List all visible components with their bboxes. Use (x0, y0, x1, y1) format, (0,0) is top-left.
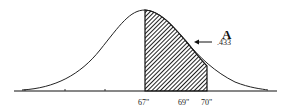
shaded-area (145, 10, 207, 91)
area-value: .433 (217, 38, 231, 47)
tick-label-67: 67" (138, 98, 149, 107)
tick-label-69: 69" (178, 98, 189, 107)
normal-curve-chart (0, 0, 294, 110)
tick-label-70: 70" (201, 98, 212, 107)
